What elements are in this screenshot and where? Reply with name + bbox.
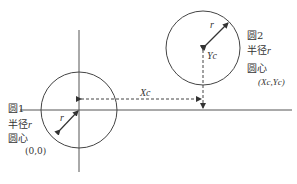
xc-label: Xc bbox=[140, 87, 151, 99]
circle-2-radius-label: 半径 bbox=[247, 45, 267, 56]
circle-1-r-label: r bbox=[60, 112, 64, 124]
circle-2-center-label: 圆心 bbox=[247, 63, 267, 75]
circle-1-title: 圆1 bbox=[8, 103, 24, 115]
circle-2-title: 圆2 bbox=[247, 30, 263, 42]
yc-label: Yc bbox=[207, 50, 217, 62]
circle-2-radius-var: r bbox=[267, 45, 271, 56]
circle-1-radius-label: 半径 bbox=[8, 119, 28, 130]
circle-1-center-label: 圆心 bbox=[8, 133, 28, 145]
circle-2-r-label: r bbox=[210, 19, 214, 31]
circle-1-radius-var: r bbox=[28, 119, 32, 130]
circle-1-radius: 半径r bbox=[8, 119, 32, 131]
circle-2 bbox=[166, 11, 240, 85]
circle-2-radius: 半径r bbox=[247, 45, 271, 57]
circle-1-center-coords: (0,0) bbox=[25, 145, 46, 157]
circle-2-center-coords: (Xc,Yc) bbox=[258, 76, 285, 88]
